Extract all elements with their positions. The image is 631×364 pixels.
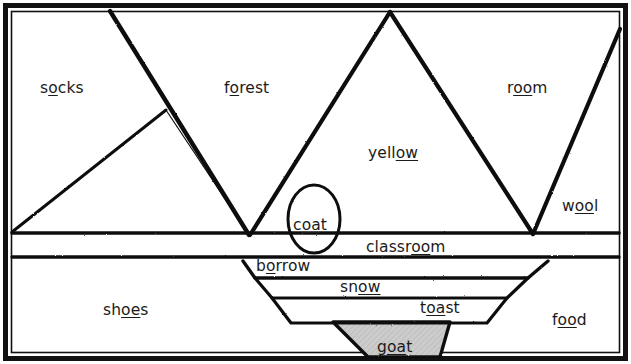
word-label-toast: toast	[420, 301, 460, 317]
word-label-snow: snow	[340, 280, 380, 296]
word-suffix: m	[430, 238, 445, 256]
word-suffix: s	[140, 301, 148, 319]
word-label-borrow: borrow	[256, 259, 310, 275]
word-label-classroom: classroom	[366, 240, 446, 256]
word-underlined-vowels: oo	[411, 238, 430, 256]
word-suffix: d	[577, 311, 587, 329]
word-underlined-vowels: oa	[302, 216, 321, 234]
word-label-room: room	[507, 81, 548, 97]
word-suffix: t	[406, 338, 412, 356]
word-suffix: m	[532, 79, 547, 97]
word-underlined-vowels: oa	[426, 299, 445, 317]
word-underlined-vowels: o	[48, 79, 58, 97]
word-prefix: sn	[340, 278, 358, 296]
word-prefix: b	[256, 257, 266, 275]
word-underlined-vowels: oo	[575, 197, 594, 215]
word-prefix: classr	[366, 238, 411, 256]
word-prefix: c	[293, 216, 302, 234]
word-underlined-vowels: oa	[387, 338, 406, 356]
word-prefix: g	[377, 338, 387, 356]
word-suffix: l	[594, 197, 598, 215]
word-underlined-vowels: o	[230, 79, 240, 97]
word-label-socks: socks	[40, 81, 84, 97]
word-underlined-vowels: oo	[558, 311, 577, 329]
word-prefix: s	[40, 79, 48, 97]
diagram-page: socks forest room yellow wool coat class…	[0, 0, 631, 364]
word-label-shoes: shoes	[103, 303, 149, 319]
word-underlined-vowels: o	[266, 257, 276, 275]
word-underlined-vowels: oe	[121, 301, 140, 319]
word-label-goat: goat	[377, 340, 412, 356]
word-label-coat: coat	[293, 218, 327, 234]
word-underlined-vowels: ow	[358, 278, 380, 296]
word-underlined-vowels: oo	[513, 79, 532, 97]
word-label-yellow: yellow	[368, 146, 418, 162]
word-prefix: w	[562, 197, 575, 215]
word-suffix: st	[445, 299, 459, 317]
word-suffix: cks	[58, 79, 84, 97]
word-label-wool: wool	[562, 199, 598, 215]
word-suffix: t	[321, 216, 327, 234]
word-suffix: rrow	[276, 257, 311, 275]
page-background	[0, 0, 631, 364]
word-label-food: food	[552, 313, 587, 329]
word-label-forest: forest	[224, 81, 269, 97]
word-prefix: yell	[368, 144, 396, 162]
word-underlined-vowels: ow	[396, 144, 418, 162]
diagram-canvas	[0, 0, 631, 364]
word-suffix: rest	[239, 79, 269, 97]
word-prefix: sh	[103, 301, 121, 319]
